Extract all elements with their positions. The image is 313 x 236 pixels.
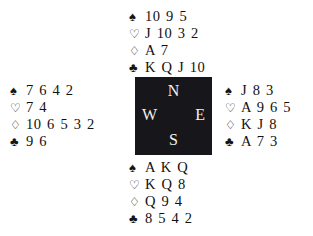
east-diamond-row: ♢ K J 8	[225, 116, 291, 133]
hand-east: ♠ J 8 3 ♡ A 9 6 5 ♢ K J 8 ♣ A 7 3	[225, 82, 291, 150]
compass-box: N W E S	[135, 77, 212, 155]
heart-icon: ♡	[129, 177, 145, 194]
north-heart-ranks: J 10 3 2	[145, 25, 199, 42]
spade-icon: ♠	[129, 8, 145, 25]
heart-icon: ♡	[225, 100, 241, 117]
west-heart-row: ♡ 7 4	[10, 99, 95, 116]
spade-icon: ♠	[129, 159, 145, 176]
south-spade-ranks: A K Q	[145, 159, 188, 176]
north-spade-row: ♠ 10 9 5	[129, 8, 205, 25]
club-icon: ♣	[129, 210, 145, 227]
club-icon: ♣	[225, 133, 241, 150]
west-club-ranks: 9 6	[26, 133, 47, 150]
diamond-icon: ♢	[10, 117, 26, 134]
west-spade-ranks: 7 6 4 2	[26, 82, 74, 99]
north-diamond-ranks: A 7	[145, 42, 169, 59]
west-spade-row: ♠ 7 6 4 2	[10, 82, 95, 99]
compass-label-east: E	[195, 107, 205, 123]
south-heart-ranks: K Q 8	[145, 176, 186, 193]
north-spade-ranks: 10 9 5	[145, 8, 187, 25]
diamond-icon: ♢	[225, 117, 241, 134]
compass-label-north: N	[135, 83, 212, 99]
compass-label-west: W	[142, 107, 157, 123]
west-heart-ranks: 7 4	[26, 99, 47, 116]
heart-icon: ♡	[129, 26, 145, 43]
east-spade-row: ♠ J 8 3	[225, 82, 291, 99]
club-icon: ♣	[10, 133, 26, 150]
diamond-icon: ♢	[129, 43, 145, 60]
south-club-row: ♣ 8 5 4 2	[129, 210, 193, 227]
hand-west: ♠ 7 6 4 2 ♡ 7 4 ♢ 10 6 5 3 2 ♣ 9 6	[10, 82, 95, 150]
west-diamond-row: ♢ 10 6 5 3 2	[10, 116, 95, 133]
heart-icon: ♡	[10, 100, 26, 117]
north-heart-row: ♡ J 10 3 2	[129, 25, 205, 42]
south-diamond-ranks: Q 9 4	[145, 193, 183, 210]
north-club-ranks: K Q J 10	[145, 59, 205, 76]
spade-icon: ♠	[10, 82, 26, 99]
east-heart-ranks: A 9 6 5	[241, 99, 291, 116]
east-club-row: ♣ A 7 3	[225, 133, 291, 150]
north-club-row: ♣ K Q J 10	[129, 59, 205, 76]
east-diamond-ranks: K J 8	[241, 116, 277, 133]
west-diamond-ranks: 10 6 5 3 2	[26, 116, 95, 133]
south-diamond-row: ♢ Q 9 4	[129, 193, 193, 210]
east-spade-ranks: J 8 3	[241, 82, 274, 99]
hand-south: ♠ A K Q ♡ K Q 8 ♢ Q 9 4 ♣ 8 5 4 2	[129, 159, 193, 227]
south-club-ranks: 8 5 4 2	[145, 210, 193, 227]
south-heart-row: ♡ K Q 8	[129, 176, 193, 193]
east-heart-row: ♡ A 9 6 5	[225, 99, 291, 116]
east-club-ranks: A 7 3	[241, 133, 278, 150]
diamond-icon: ♢	[129, 194, 145, 211]
hand-north: ♠ 10 9 5 ♡ J 10 3 2 ♢ A 7 ♣ K Q J 10	[129, 8, 205, 76]
club-icon: ♣	[129, 59, 145, 76]
compass-label-south: S	[135, 132, 212, 148]
west-club-row: ♣ 9 6	[10, 133, 95, 150]
spade-icon: ♠	[225, 82, 241, 99]
bridge-hand-diagram: ♠ 10 9 5 ♡ J 10 3 2 ♢ A 7 ♣ K Q J 10 ♠ 7…	[0, 0, 313, 236]
south-spade-row: ♠ A K Q	[129, 159, 193, 176]
north-diamond-row: ♢ A 7	[129, 42, 205, 59]
